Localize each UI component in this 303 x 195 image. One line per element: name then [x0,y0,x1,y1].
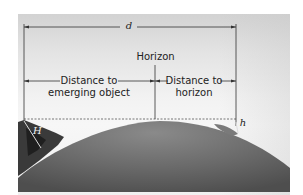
right-segment-label: Distance to horizon [165,75,223,99]
object-height-label-H: H [33,125,41,137]
earth-curve [18,121,290,195]
observer-height-line [236,122,238,133]
horizon-label: Horizon [128,51,183,63]
left-segment-label: Distance to emerging object [58,75,120,99]
observer-height-label-h: h [239,117,247,129]
distance-label-d: d [122,20,136,32]
